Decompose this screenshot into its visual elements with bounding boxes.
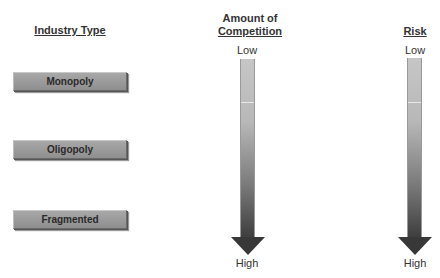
industry-type-header: Industry Type [20, 24, 120, 37]
competition-low-label: Low [230, 44, 264, 56]
competition-header-line2: Competition [205, 25, 295, 38]
industry-box-oligopoly: Oligopoly [13, 140, 127, 159]
risk-arrow-icon [398, 58, 432, 255]
industry-box-monopoly: Monopoly [13, 72, 127, 91]
risk-header: Risk [395, 25, 435, 38]
competition-header-line1: Amount of [205, 12, 295, 25]
risk-low-label: Low [398, 44, 432, 56]
risk-high-label: High [398, 257, 432, 269]
competition-high-label: High [230, 257, 264, 269]
industry-box-fragmented: Fragmented [13, 210, 127, 229]
competition-arrow-icon [231, 59, 265, 255]
competition-header: Amount of Competition [205, 12, 295, 38]
